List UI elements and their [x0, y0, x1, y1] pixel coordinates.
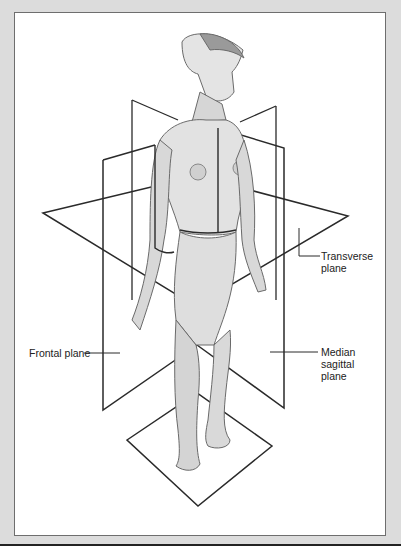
frontal-plane-label: Frontal plane [29, 347, 90, 359]
label-line: sagittal [321, 358, 355, 370]
label-line: Median [321, 346, 355, 358]
floor-plane [127, 393, 272, 506]
median-sagittal-plane-label: Median sagittal plane [321, 346, 355, 382]
anatomical-planes-illustration [0, 0, 401, 553]
transverse-plane-label: Transverse plane [321, 250, 373, 274]
label-line: plane [321, 262, 373, 274]
label-line: Transverse [321, 250, 373, 262]
human-figure [132, 34, 266, 471]
transverse-leader [299, 228, 320, 256]
label-line: plane [321, 370, 355, 382]
